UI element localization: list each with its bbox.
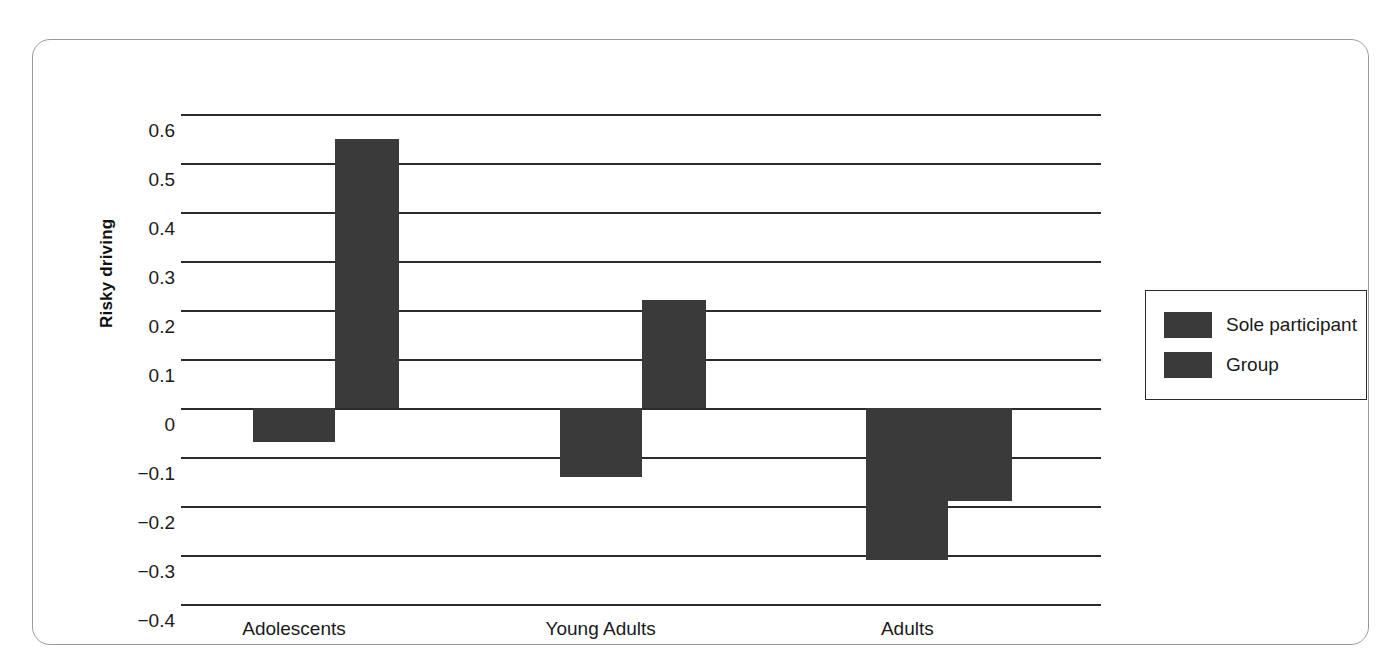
legend-item-group[interactable]: Group [1146,345,1366,385]
x-axis-category-label: Adults [881,618,934,640]
legend-swatch-icon [1164,352,1212,378]
legend-item-sole-participant[interactable]: Sole participant [1146,305,1366,345]
chart-legend: Sole participant Group [1145,290,1367,400]
bar [948,408,1012,501]
y-axis-tick-label: 0.2 [149,317,175,336]
plot-area: 0.60.50.40.30.20.10−0.1−0.2−0.3−0.4 [181,114,1101,604]
x-axis-category-label: Adolescents [242,618,346,640]
bar [253,408,335,442]
y-axis-tick-label: −0.2 [137,513,175,532]
y-axis-tick-label: 0.1 [149,366,175,385]
figure-frame: Risky driving 0.60.50.40.30.20.10−0.1−0.… [32,39,1369,645]
y-axis-tick-label: 0.4 [149,219,175,238]
legend-item-label: Group [1226,354,1279,376]
y-axis-tick-label: 0.6 [149,121,175,140]
x-axis-category-label: Young Adults [546,618,656,640]
bar [642,300,706,408]
legend-item-label: Sole participant [1226,314,1357,336]
gridline [181,555,1101,557]
y-axis-tick-label: 0.3 [149,268,175,287]
gridline [181,163,1101,165]
gridline [181,114,1101,116]
legend-swatch-icon [1164,312,1212,338]
bar [866,408,948,560]
y-axis-tick-label: −0.1 [137,464,175,483]
gridline [181,212,1101,214]
y-axis-tick-label: 0.5 [149,170,175,189]
bar [560,408,642,477]
gridline [181,506,1101,508]
gridline [181,261,1101,263]
y-axis-tick-label: −0.3 [137,562,175,581]
gridline [181,604,1101,606]
y-axis-title: Risky driving [97,298,117,328]
y-axis-tick-label: −0.4 [137,611,175,630]
bar [335,139,399,409]
y-axis-tick-label: 0 [164,415,175,434]
